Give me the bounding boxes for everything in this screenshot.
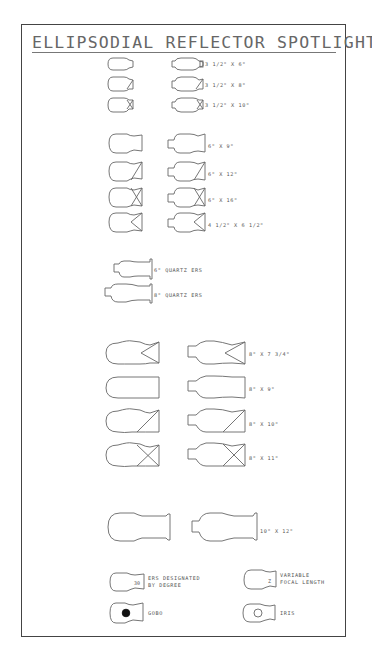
ers-6x9-section-symbol bbox=[168, 134, 205, 153]
ers-8x7-plan-symbol bbox=[106, 341, 159, 364]
ers-4x6-section-symbol bbox=[168, 213, 205, 232]
symbol-diagram: 30 Z bbox=[0, 0, 372, 658]
ers-3x10-plan-symbol bbox=[108, 98, 133, 112]
label-6x12: 6" X 12" bbox=[208, 171, 238, 178]
ers-8x7-section-symbol bbox=[188, 341, 245, 364]
ers-3x8-plan-symbol bbox=[108, 77, 133, 91]
ers-4x6-plan-symbol bbox=[109, 213, 142, 232]
label-iris: IRIS bbox=[280, 610, 295, 617]
ers-8x9-plan-symbol bbox=[106, 377, 159, 398]
ers-3x10-section-symbol bbox=[172, 98, 203, 112]
label-3x8: 3 1/2" X 8" bbox=[205, 82, 246, 89]
ers-6x9-plan-symbol bbox=[109, 134, 142, 153]
ers-10x12-plan-symbol bbox=[108, 513, 170, 541]
label-quartz-8: 8" QUARTZ ERS bbox=[154, 292, 202, 299]
quartz-6-symbol bbox=[114, 259, 152, 279]
label-3x6: 3 1/2" X 6" bbox=[205, 61, 246, 68]
ers-8x10-section-symbol bbox=[188, 409, 245, 432]
ers-6x12-section-symbol bbox=[168, 162, 205, 181]
iris-symbol bbox=[243, 604, 275, 622]
label-quartz-6: 6" QUARTZ ERS bbox=[154, 267, 202, 274]
ers-8x11-section-symbol bbox=[188, 443, 245, 466]
quartz-8-symbol bbox=[105, 284, 152, 303]
label-10x12: 10" X 12" bbox=[260, 528, 294, 535]
gobo-symbol bbox=[110, 603, 143, 623]
ers-3x8-section-symbol bbox=[172, 77, 203, 91]
label-6x16: 6" X 16" bbox=[208, 197, 238, 204]
label-degree-line1: ERS DESIGNATED bbox=[148, 575, 200, 582]
label-degree-line2: BY DEGREE bbox=[148, 582, 182, 589]
ers-8x9-section-symbol bbox=[188, 376, 245, 398]
ers-3x6-plan-symbol bbox=[108, 58, 133, 70]
degree-designation-symbol: 30 bbox=[110, 573, 144, 591]
label-variable-line2: FOCAL LENGTH bbox=[280, 579, 325, 586]
label-3x10: 3 1/2" X 10" bbox=[205, 102, 250, 109]
label-6x9: 6" X 9" bbox=[208, 143, 234, 150]
label-8x10: 8" X 10" bbox=[249, 421, 279, 428]
label-gobo: GOBO bbox=[148, 610, 163, 617]
label-8x11: 8" X 11" bbox=[249, 455, 279, 462]
variable-symbol-text: Z bbox=[268, 578, 271, 584]
degree-symbol-text: 30 bbox=[134, 580, 140, 586]
ers-6x16-plan-symbol bbox=[109, 188, 142, 207]
ers-6x12-plan-symbol bbox=[109, 162, 142, 181]
ers-8x10-plan-symbol bbox=[106, 409, 159, 433]
variable-focal-symbol: Z bbox=[244, 570, 276, 589]
ers-10x12-section-symbol bbox=[192, 513, 257, 541]
ers-6x16-section-symbol bbox=[168, 188, 205, 207]
label-8x7: 8" X 7 3/4" bbox=[249, 351, 290, 358]
label-variable-line1: VARIABLE bbox=[280, 572, 310, 579]
ers-8x11-plan-symbol bbox=[106, 443, 159, 467]
ers-3x6-section-symbol bbox=[172, 58, 203, 70]
label-4x6: 4 1/2" X 6 1/2" bbox=[208, 222, 264, 229]
label-8x9: 8" X 9" bbox=[249, 386, 275, 393]
